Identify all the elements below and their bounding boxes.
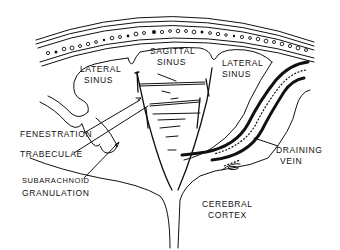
sagittal-sinus-walls — [135, 68, 212, 190]
label-fenestration: FENESTRATION — [20, 129, 92, 139]
label-sagittal-sinus-line1: SAGITTAL — [150, 46, 195, 56]
label-cerebral-cortex-line1: CEREBRAL — [202, 199, 253, 209]
label-lateral-sinus-left-line2: SINUS — [84, 75, 113, 85]
label-sagittal-sinus-line2: SINUS — [157, 57, 186, 67]
pointer-lines — [74, 98, 278, 178]
label-lateral-sinus-right-line1: LATERAL — [222, 58, 263, 68]
label-subarachnoid-granulation-line1: SUBARACHNOID — [22, 176, 90, 185]
label-lateral-sinus-left-line1: LATERAL — [80, 64, 121, 74]
label-trabeculae: TRABECULAE — [20, 149, 83, 159]
label-draining-vein-line2: VEIN — [280, 156, 302, 166]
labels: SAGITTAL SINUS LATERAL SINUS LATERAL SIN… — [20, 46, 322, 220]
label-draining-vein-line1: DRAINING — [276, 145, 322, 155]
label-lateral-sinus-right-line2: SINUS — [222, 69, 251, 79]
label-cerebral-cortex-line2: CORTEX — [208, 210, 247, 220]
sagittal-sinus-diagram: SAGITTAL SINUS LATERAL SINUS LATERAL SIN… — [0, 0, 340, 250]
trabeculae — [140, 74, 205, 150]
label-subarachnoid-granulation-line2: GRANULATION — [22, 188, 89, 198]
